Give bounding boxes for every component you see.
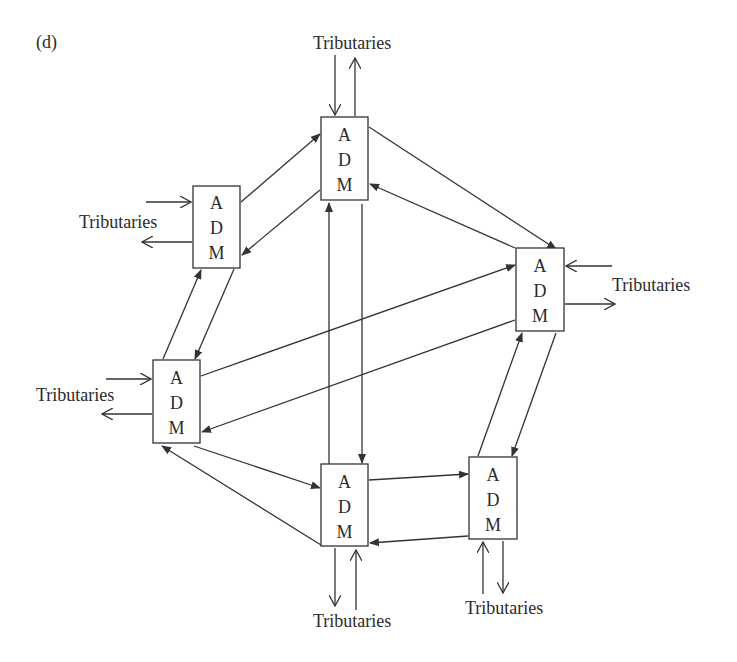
- adm-node-bottom-center: A D M: [321, 464, 368, 546]
- link-bottomright-to-bottomcenter: [370, 536, 468, 543]
- adm-node-top: A D M: [321, 117, 368, 200]
- svg-text:D: D: [534, 281, 547, 301]
- svg-text:A: A: [534, 256, 547, 276]
- adm-mesh-diagram: (d): [0, 0, 737, 662]
- link-upperleft-to-top: [241, 134, 320, 202]
- svg-text:D: D: [170, 393, 183, 413]
- svg-text:M: M: [485, 515, 501, 535]
- tributaries-label-upper-left: Tributaries: [79, 212, 157, 232]
- svg-text:D: D: [338, 497, 351, 517]
- adm-node-right: A D M: [516, 248, 564, 331]
- link-bottomright-to-right: [478, 333, 522, 456]
- link-left-to-bottomcenter: [194, 446, 320, 488]
- svg-text:D: D: [210, 218, 223, 238]
- svg-text:A: A: [210, 193, 223, 213]
- svg-text:M: M: [168, 418, 184, 438]
- svg-text:M: M: [532, 306, 548, 326]
- tributaries-label-bottom-right: Tributaries: [465, 598, 543, 618]
- link-bottomcenter-to-left: [162, 446, 321, 545]
- svg-text:D: D: [487, 490, 500, 510]
- link-right-to-bottomright: [512, 333, 556, 456]
- tributaries-label-left: Tributaries: [36, 385, 114, 405]
- svg-text:A: A: [487, 465, 500, 485]
- link-top-to-upperleft: [242, 190, 320, 255]
- adm-node-upper-left: A D M: [193, 186, 240, 268]
- svg-text:M: M: [208, 243, 224, 263]
- adm-node-left: A D M: [153, 360, 200, 443]
- tributaries-label-bottom-center: Tributaries: [313, 611, 391, 631]
- tributaries-label-top: Tributaries: [313, 33, 391, 53]
- svg-text:M: M: [336, 175, 352, 195]
- tributaries-label-right: Tributaries: [612, 275, 690, 295]
- svg-text:A: A: [338, 125, 351, 145]
- link-left-to-upperleft: [163, 270, 201, 359]
- link-right-to-top: [370, 184, 515, 248]
- link-top-to-right: [369, 127, 556, 249]
- figure-label: (d): [36, 32, 57, 53]
- svg-text:M: M: [336, 522, 352, 542]
- link-right-to-left: [202, 320, 515, 432]
- svg-text:D: D: [338, 150, 351, 170]
- link-left-to-right: [201, 265, 515, 376]
- svg-text:A: A: [338, 472, 351, 492]
- adm-node-bottom-right: A D M: [469, 457, 517, 539]
- link-bottomcenter-to-bottomright: [369, 474, 468, 480]
- svg-text:A: A: [170, 368, 183, 388]
- link-upperleft-to-left: [195, 269, 234, 359]
